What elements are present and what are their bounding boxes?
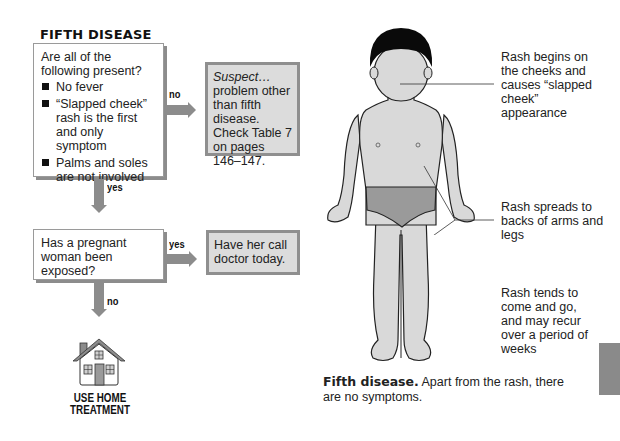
answer-2-text: Have her call doctor today.: [214, 238, 287, 266]
bullet-square-icon: [42, 83, 49, 90]
no-arrow-2: [94, 282, 104, 309]
yes-arrow-1: [94, 179, 104, 205]
yes-label-2: yes: [169, 238, 185, 250]
use-home-treatment-label: USE HOME TREATMENT: [67, 392, 133, 416]
yes-arrow-2: [165, 254, 189, 264]
house-icon: [71, 337, 127, 387]
figure-caption: Fifth disease. Apart from the rash, ther…: [323, 374, 583, 405]
suspect-italic: Suspect…: [213, 70, 271, 84]
annotation-leader-lines: [400, 75, 500, 235]
page-edge-tab: [599, 343, 620, 395]
criteria-item: “Slapped cheek” rash is the first and on…: [41, 97, 156, 153]
no-label-2: no: [107, 295, 118, 307]
annotation-cheeks: Rash begins on the cheeks and causes “sl…: [501, 50, 601, 120]
yes-label-1: yes: [107, 181, 123, 193]
question-box-1: Are all of the following present? No fev…: [33, 43, 164, 177]
annotation-recur: Rash tends to come and go, and may recur…: [501, 286, 601, 356]
question-box-2: Has a pregnant woman been exposed?: [33, 229, 164, 280]
question-1-text: Are all of the following present?: [41, 50, 156, 78]
no-label-1: no: [169, 88, 180, 100]
criteria-list: No fever “Slapped cheek” rash is the fir…: [41, 80, 156, 184]
no-arrow-1: [165, 105, 188, 115]
bullet-square-icon: [42, 100, 49, 107]
answer-box-suspect: Suspect… problem other than fifth diseas…: [205, 62, 300, 156]
answer-1-text: problem other than fifth disease. Check …: [213, 84, 292, 168]
page-title: FIFTH DISEASE: [40, 27, 152, 42]
question-2-text: Has a pregnant woman been exposed?: [41, 236, 156, 278]
bullet-square-icon: [42, 159, 49, 166]
answer-box-call-doctor: Have her call doctor today.: [206, 230, 300, 275]
criteria-item: No fever: [41, 80, 156, 94]
annotation-arms-legs: Rash spreads to backs of arms and legs: [501, 200, 620, 242]
caption-bold: Fifth disease.: [323, 374, 419, 389]
